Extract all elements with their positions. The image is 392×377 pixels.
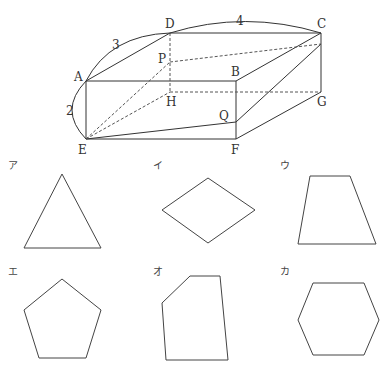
label-H: H (166, 95, 176, 109)
hidden-edge-EH (86, 92, 170, 139)
label-E: E (78, 143, 87, 157)
dimension-DC: 4 (236, 14, 244, 28)
dimension-arc-DC (170, 22, 321, 34)
option-ka-hexagon (298, 283, 379, 355)
dimension-AE: 2 (66, 104, 74, 118)
label-D: D (165, 17, 175, 31)
option-e-label: エ (8, 266, 18, 277)
option-o-label: オ (153, 266, 163, 277)
hidden-section-P-CG (170, 44, 321, 62)
option-e-pentagon (24, 279, 101, 358)
label-A: A (73, 70, 83, 84)
label-C: C (317, 17, 326, 31)
edge-FG (236, 92, 321, 139)
option-ka-label: カ (280, 266, 290, 277)
label-B: B (231, 65, 240, 79)
label-G: G (317, 95, 327, 109)
section-Q-CG (236, 44, 321, 122)
option-a-label: ア (8, 160, 18, 171)
dimension-AD: 3 (112, 38, 120, 52)
edge-BC (236, 33, 321, 81)
cuboid-figure: D C A B P H G Q E F 3 4 2 ア イ ウ エ オ カ (0, 0, 392, 377)
label-F: F (231, 143, 239, 157)
label-P: P (158, 52, 166, 66)
option-i-rhombus (162, 178, 255, 243)
option-u-trapezoid (298, 176, 376, 244)
label-Q: Q (219, 109, 229, 123)
option-a-triangle (24, 174, 101, 248)
option-i-label: イ (153, 160, 163, 171)
option-o-pentagon (162, 276, 228, 360)
section-EQ (86, 122, 236, 139)
option-u-label: ウ (280, 160, 290, 171)
dimension-arc-AE (72, 81, 86, 139)
